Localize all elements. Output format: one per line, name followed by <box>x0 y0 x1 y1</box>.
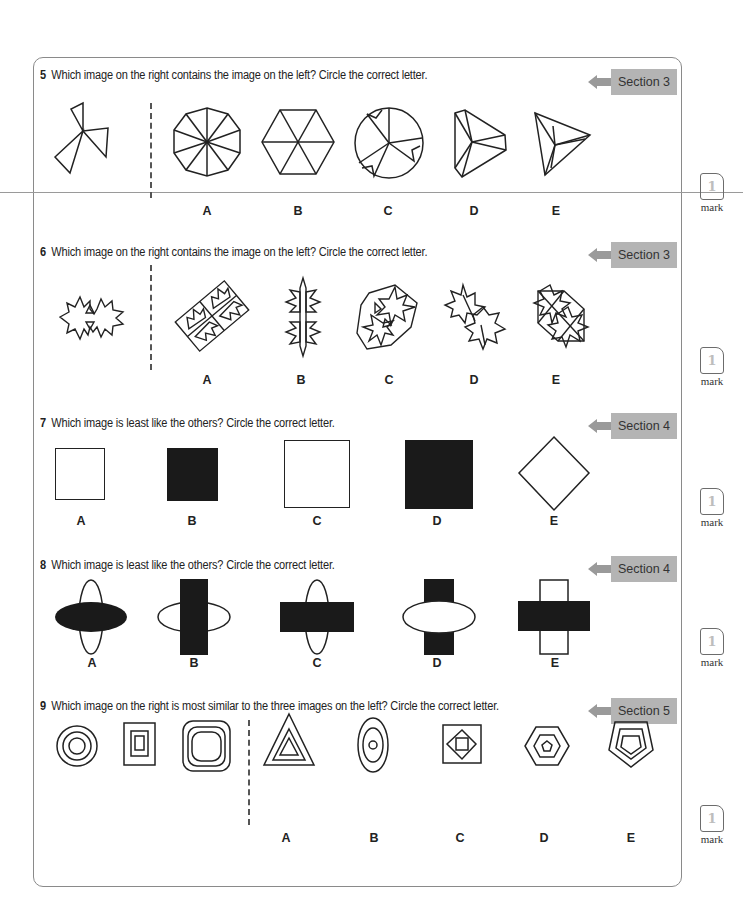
option-a-concentric-triangles[interactable] <box>263 713 315 767</box>
option-d-overlapping-stars-figure[interactable] <box>445 285 507 349</box>
option-letter-c[interactable]: C <box>307 514 327 528</box>
option-letter-e[interactable]: E <box>546 373 566 387</box>
option-letter-a[interactable]: A <box>276 831 296 845</box>
option-letter-c[interactable]: C <box>379 373 399 387</box>
option-letter-d[interactable]: D <box>464 204 484 218</box>
option-letter-b[interactable]: B <box>184 656 204 670</box>
question-text: 5Which image on the right contains the i… <box>40 68 427 82</box>
option-letter-b[interactable]: B <box>182 514 202 528</box>
option-letter-b[interactable]: B <box>364 831 384 845</box>
mark-value: 1 <box>700 805 724 832</box>
section-badge: Section 4 <box>611 556 677 582</box>
question-text: 7Which image is least like the others? C… <box>40 416 335 430</box>
option-d-hexagon-hexagon-pentagon[interactable] <box>524 726 570 766</box>
section-badge: Section 3 <box>611 69 677 95</box>
option-letter-b[interactable]: B <box>291 373 311 387</box>
option-e-diamond[interactable] <box>517 436 591 512</box>
question-prompt: Which image on the right contains the im… <box>51 68 427 82</box>
option-letter-d[interactable]: D <box>427 656 447 670</box>
option-letter-e[interactable]: E <box>545 656 565 670</box>
question-prompt: Which image is least like the others? Ci… <box>51 416 334 430</box>
option-letter-d[interactable]: D <box>427 514 447 528</box>
question-number: 6 <box>40 245 46 259</box>
example-concentric-rounded-squares <box>182 720 232 772</box>
mark-value: 1 <box>700 347 724 374</box>
mark-label: mark <box>697 516 727 528</box>
option-e-triangle-figure[interactable] <box>535 113 595 178</box>
question-number: 8 <box>40 558 46 572</box>
question-prompt: Which image is least like the others? Ci… <box>51 558 334 572</box>
option-letter-b[interactable]: B <box>288 204 308 218</box>
option-b-small-black-rectangle[interactable] <box>167 448 218 501</box>
page-fold-line <box>0 192 743 193</box>
option-letter-a[interactable]: A <box>197 204 217 218</box>
option-d-triangle-figure[interactable] <box>450 110 510 178</box>
example-concentric-circles <box>56 725 98 767</box>
section-tag: Section 4 <box>588 556 678 582</box>
option-letter-c[interactable]: C <box>378 204 398 218</box>
option-b-vertical-stars-figure[interactable] <box>282 278 324 356</box>
option-letter-d[interactable]: D <box>464 373 484 387</box>
mark-box: 1 mark <box>697 628 727 668</box>
option-letter-e[interactable]: E <box>544 514 564 528</box>
divider-dashed <box>150 265 152 370</box>
question-text: 8Which image is least like the others? C… <box>40 558 335 572</box>
example-concentric-rectangles <box>123 722 157 766</box>
question-number: 9 <box>40 699 46 713</box>
mark-box: 1 mark <box>697 173 727 213</box>
option-d-large-black-rectangle[interactable] <box>405 440 473 509</box>
option-a-star-rectangle-figure[interactable] <box>172 277 252 355</box>
arrow-left-icon <box>588 419 612 433</box>
arrow-left-icon <box>588 704 612 718</box>
mark-box: 1 mark <box>697 347 727 387</box>
question-number: 7 <box>40 416 46 430</box>
arrow-left-icon <box>588 248 612 262</box>
question-prompt: Which image on the right contains the im… <box>51 245 427 259</box>
option-c-black-rect-over-white-ellipse[interactable] <box>280 579 354 655</box>
option-b-hexagon-figure[interactable] <box>262 110 334 176</box>
mark-label: mark <box>697 375 727 387</box>
option-a-black-ellipse-over-white-ellipse[interactable] <box>53 579 129 655</box>
option-e-black-rect-over-white-rect[interactable] <box>518 579 592 655</box>
option-d-white-ellipse-over-black-rect[interactable] <box>402 579 476 655</box>
section-tag: Section 4 <box>588 413 678 439</box>
mark-value: 1 <box>700 628 724 655</box>
option-c-large-white-rectangle[interactable] <box>284 440 350 508</box>
divider-dashed <box>150 103 152 198</box>
mark-label: mark <box>697 201 727 213</box>
option-letter-a[interactable]: A <box>197 373 217 387</box>
option-letter-a[interactable]: A <box>71 514 91 528</box>
section-badge: Section 4 <box>611 413 677 439</box>
option-a-small-white-rectangle[interactable] <box>55 448 105 500</box>
mark-value: 1 <box>700 488 724 515</box>
option-b-black-rect-over-white-ellipse[interactable] <box>156 579 232 655</box>
option-e-concentric-pentagons[interactable] <box>607 720 655 768</box>
option-c-circle-figure[interactable] <box>354 108 426 180</box>
mark-box: 1 mark <box>697 805 727 845</box>
option-letter-e[interactable]: E <box>621 831 641 845</box>
section-tag: Section 3 <box>588 242 678 268</box>
arrow-left-icon <box>588 75 612 89</box>
option-b-concentric-ovals-with-dot[interactable] <box>357 717 389 773</box>
option-a-decagon-figure[interactable] <box>172 108 242 178</box>
option-letter-a[interactable]: A <box>82 656 102 670</box>
target-pinwheel-figure <box>50 105 120 180</box>
mark-value: 1 <box>700 173 724 200</box>
mark-label: mark <box>697 833 727 845</box>
question-prompt: Which image on the right is most similar… <box>51 699 499 713</box>
section-badge: Section 3 <box>611 242 677 268</box>
option-letter-c[interactable]: C <box>450 831 470 845</box>
option-c-octagon-stars-figure[interactable] <box>355 285 421 349</box>
option-e-hexagon-stars-figure[interactable] <box>530 285 592 349</box>
arrow-left-icon <box>588 562 612 576</box>
option-letter-d[interactable]: D <box>534 831 554 845</box>
option-c-square-diamond-square[interactable] <box>442 724 482 764</box>
question-number: 5 <box>40 68 46 82</box>
option-letter-c[interactable]: C <box>307 656 327 670</box>
question-text: 9Which image on the right is most simila… <box>40 699 499 713</box>
target-twin-stars-figure <box>55 295 130 340</box>
option-letter-e[interactable]: E <box>546 204 566 218</box>
section-tag: Section 3 <box>588 69 678 95</box>
mark-box: 1 mark <box>697 488 727 528</box>
divider-dashed <box>248 720 250 825</box>
